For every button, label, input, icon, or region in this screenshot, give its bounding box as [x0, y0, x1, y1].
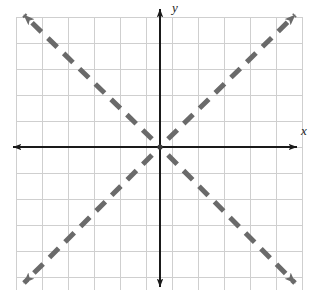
y-axis-label: y	[172, 1, 178, 14]
graph-figure: y x	[0, 0, 310, 300]
origin-point	[157, 144, 162, 149]
coordinate-plane-svg	[0, 0, 310, 300]
x-axis-label: x	[301, 124, 307, 137]
